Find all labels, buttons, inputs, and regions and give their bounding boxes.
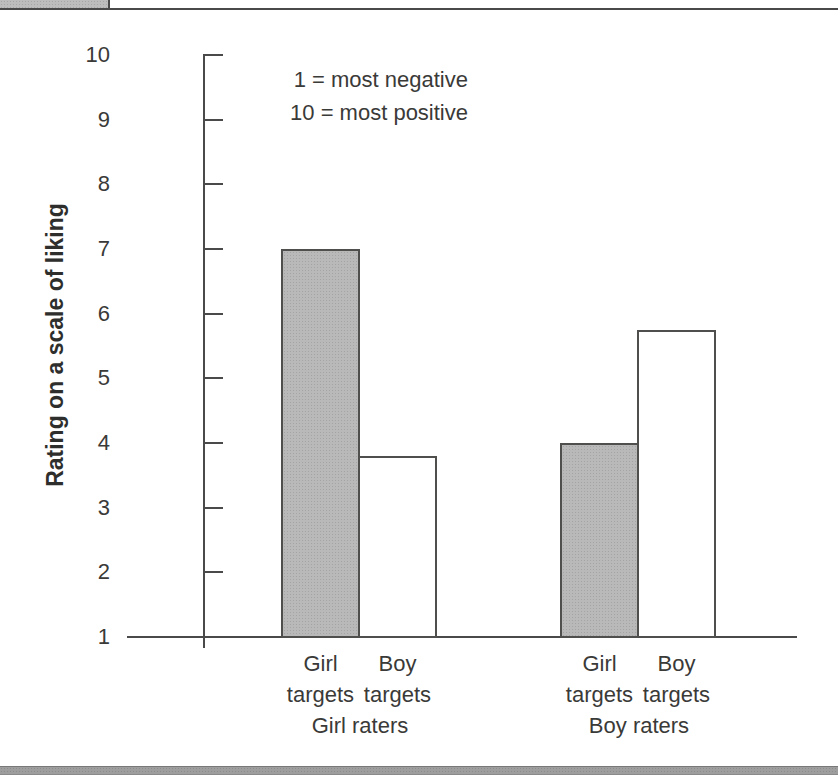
bar-girl-targets-girl-raters	[281, 249, 360, 638]
annotation-line-2: 10 = most positive	[240, 96, 468, 129]
y-tick-4	[205, 442, 223, 444]
group-label-girl-raters: Girl raters	[270, 712, 450, 740]
y-tick-label-3: 3	[52, 494, 110, 522]
y-tick-5	[205, 377, 223, 379]
scale-annotation: 1 = most negative 10 = most positive	[240, 63, 468, 129]
y-tick-label-5: 5	[52, 364, 110, 392]
y-tick-9	[205, 119, 223, 121]
bar-label-boy-targets-boy-raters: Boy targets	[632, 648, 722, 710]
y-tick-1	[205, 636, 223, 638]
y-tick-3	[205, 507, 223, 509]
y-axis-line	[203, 54, 205, 648]
y-tick-label-6: 6	[52, 300, 110, 328]
y-tick-7	[205, 248, 223, 250]
y-tick-6	[205, 313, 223, 315]
bar-boy-targets-boy-raters	[637, 330, 716, 638]
bottom-rule	[0, 766, 838, 775]
figure-page: Rating on a scale of liking 1 = most neg…	[0, 0, 838, 781]
y-tick-label-1: 1	[52, 623, 110, 651]
bar-girl-targets-boy-raters	[560, 443, 639, 638]
bar-label-boy-targets-girl-raters: Boy targets	[353, 648, 443, 710]
bar-boy-targets-girl-raters	[358, 456, 437, 638]
annotation-line-1: 1 = most negative	[240, 63, 468, 96]
y-tick-label-2: 2	[52, 558, 110, 586]
y-tick-10	[205, 54, 223, 56]
y-tick-label-10: 10	[52, 41, 110, 69]
top-rule	[0, 8, 838, 10]
y-tick-label-7: 7	[52, 235, 110, 263]
y-tick-label-8: 8	[52, 170, 110, 198]
y-tick-2	[205, 571, 223, 573]
y-tick-label-9: 9	[52, 106, 110, 134]
group-label-boy-raters: Boy raters	[549, 712, 729, 740]
page-header-tab	[0, 0, 110, 8]
y-axis-title: Rating on a scale of liking	[40, 145, 70, 545]
y-tick-label-4: 4	[52, 429, 110, 457]
y-tick-8	[205, 183, 223, 185]
